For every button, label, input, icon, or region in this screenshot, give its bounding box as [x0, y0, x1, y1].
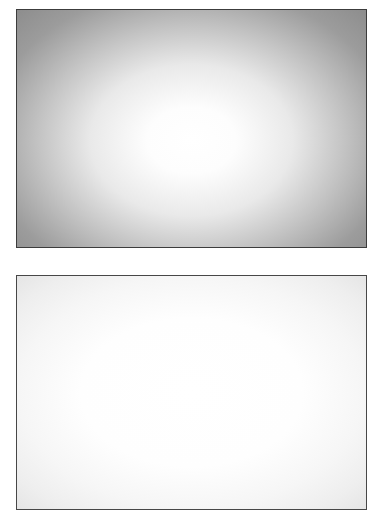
- gradient-panel-bottom: [16, 275, 367, 510]
- gradient-panel-top: [16, 9, 367, 248]
